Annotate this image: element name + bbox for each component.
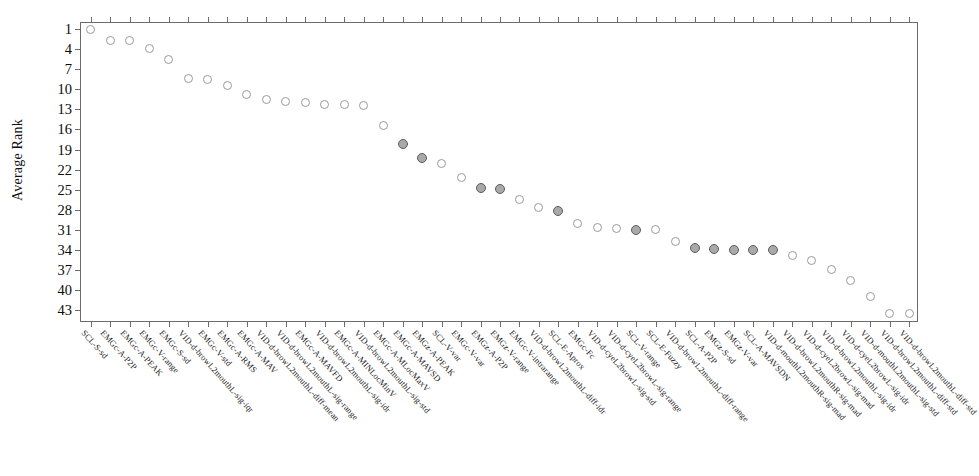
y-axis-title: Average Rank <box>10 60 26 260</box>
data-point[interactable] <box>748 245 758 255</box>
data-point[interactable] <box>164 55 173 64</box>
data-point[interactable] <box>320 100 329 109</box>
data-point[interactable] <box>709 244 719 254</box>
y-axis-tick-label: 13 <box>58 101 73 118</box>
data-point[interactable] <box>807 256 816 265</box>
data-point[interactable] <box>379 121 388 130</box>
data-point[interactable] <box>515 195 524 204</box>
data-point[interactable] <box>885 309 894 318</box>
y-axis-tick-label: 7 <box>65 61 72 78</box>
data-point[interactable] <box>476 183 486 193</box>
scatter-series <box>81 23 917 321</box>
plot-area: 147101316192225283134374043 <box>80 22 918 322</box>
data-point[interactable] <box>359 101 368 110</box>
data-point[interactable] <box>827 265 836 274</box>
data-point[interactable] <box>106 36 115 45</box>
y-axis-tick-label: 31 <box>58 221 73 238</box>
y-axis-tick-label: 43 <box>58 302 73 319</box>
x-axis-tick-labels: SCL-S-sdEMGc-A-P2PEMGc-A-PEAKEMGc-V-rang… <box>80 322 918 472</box>
data-point[interactable] <box>768 245 778 255</box>
data-point[interactable] <box>86 25 95 34</box>
y-axis-tick-label: 28 <box>58 201 73 218</box>
data-point[interactable] <box>398 139 408 149</box>
data-point[interactable] <box>495 184 505 194</box>
y-axis-tick-label: 22 <box>58 161 73 178</box>
x-axis-tick-label: VID-d-browL2mouthL-diff-std <box>898 328 979 417</box>
data-point[interactable] <box>651 225 660 234</box>
data-point[interactable] <box>223 81 232 90</box>
data-point[interactable] <box>184 74 193 83</box>
data-point[interactable] <box>866 292 875 301</box>
data-point[interactable] <box>788 251 797 260</box>
data-point[interactable] <box>612 224 621 233</box>
data-point[interactable] <box>340 100 349 109</box>
data-point[interactable] <box>145 44 154 53</box>
y-axis-tick-label: 16 <box>58 121 73 138</box>
y-axis-tick-label: 25 <box>58 181 73 198</box>
data-point[interactable] <box>437 159 446 168</box>
y-axis-tick-label: 37 <box>58 262 73 279</box>
data-point[interactable] <box>301 98 310 107</box>
data-point[interactable] <box>203 75 212 84</box>
data-point[interactable] <box>690 243 700 253</box>
y-axis-tick-label: 10 <box>58 81 73 98</box>
y-axis-tick-label: 34 <box>58 242 73 259</box>
data-point[interactable] <box>593 223 602 232</box>
data-point[interactable] <box>846 276 855 285</box>
data-point[interactable] <box>553 206 563 216</box>
data-point[interactable] <box>631 225 641 235</box>
data-point[interactable] <box>417 153 427 163</box>
data-point[interactable] <box>262 95 271 104</box>
data-point[interactable] <box>729 245 739 255</box>
data-point[interactable] <box>671 237 680 246</box>
y-axis-tick-label: 40 <box>58 282 73 299</box>
y-axis-tick-label: 1 <box>65 21 72 38</box>
y-axis-tick-label: 19 <box>58 141 73 158</box>
data-point[interactable] <box>281 97 290 106</box>
data-point[interactable] <box>573 219 582 228</box>
data-point[interactable] <box>905 309 914 318</box>
data-point[interactable] <box>457 173 466 182</box>
data-point[interactable] <box>534 203 543 212</box>
y-axis-tick-label: 4 <box>65 41 72 58</box>
data-point[interactable] <box>125 36 134 45</box>
data-point[interactable] <box>242 90 251 99</box>
